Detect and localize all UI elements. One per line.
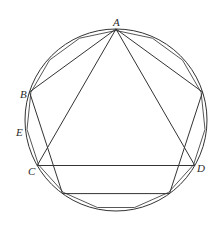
vertex-label-C: C [28,166,35,177]
circumscribed-circle [25,29,207,211]
construction-segments [30,29,203,194]
vertex-label-D: D [197,163,205,174]
vertex-label-B: B [20,89,27,100]
segment-A-B [30,29,117,92]
inscribed-15-gon [27,31,205,208]
vertex-label-A: A [113,17,120,28]
segment-A-P_right [116,29,203,92]
geometry-figure [0,0,220,229]
vertex-label-E: E [16,127,23,138]
segment-A-D [116,29,195,166]
segment-A-C [37,29,116,166]
